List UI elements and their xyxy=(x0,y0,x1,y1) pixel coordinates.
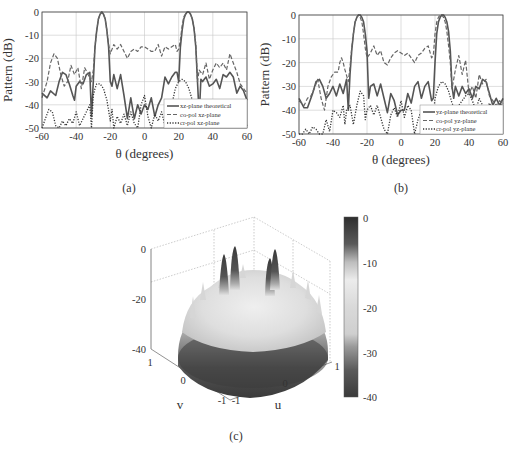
v-axis-label: v xyxy=(177,397,184,412)
svg-text:60: 60 xyxy=(242,131,253,142)
z-tick-labels: 0 -20 -40 xyxy=(132,244,146,355)
svg-text:0: 0 xyxy=(363,213,368,224)
svg-text:-50: -50 xyxy=(25,123,39,134)
x-axis-label-b: θ (degrees) xyxy=(372,152,430,167)
svg-text:40: 40 xyxy=(464,137,475,148)
svg-text:0: 0 xyxy=(291,10,296,21)
svg-text:0: 0 xyxy=(180,375,185,386)
svg-text:0: 0 xyxy=(142,131,147,142)
chart-panel-b: -60-40-2002040600-10-20-30-40-50 θ (degr… xyxy=(257,10,508,195)
svg-text:0: 0 xyxy=(282,378,287,389)
svg-text:0: 0 xyxy=(141,244,146,255)
svg-text:-20: -20 xyxy=(282,58,296,69)
svg-text:1: 1 xyxy=(334,361,339,372)
svg-text:-20: -20 xyxy=(25,53,39,64)
svg-text:-40: -40 xyxy=(363,392,377,403)
svg-text:-10: -10 xyxy=(25,30,39,41)
colorbar-tick-labels: 0 -10 -20 -30 -40 xyxy=(363,213,377,403)
svg-text:0: 0 xyxy=(398,137,403,148)
x-axis-label-a: θ (degrees) xyxy=(116,146,174,161)
svg-text:60: 60 xyxy=(498,137,509,148)
svg-text:-1: -1 xyxy=(232,395,241,406)
svg-text:-30: -30 xyxy=(25,77,39,88)
svg-text:-40: -40 xyxy=(69,131,83,142)
svg-text:-30: -30 xyxy=(282,81,296,92)
svg-text:-40: -40 xyxy=(25,100,39,111)
svg-text:20: 20 xyxy=(173,131,184,142)
svg-text:-1: -1 xyxy=(218,395,227,406)
legend-a: xz-plane theoreticalco-pol xz-planecr-po… xyxy=(164,99,247,128)
svg-text:-10: -10 xyxy=(282,34,296,45)
chart-panel-a: -60-40-2002040600-10-20-30-40-50 θ (degr… xyxy=(0,7,252,195)
legend-entry: yz-plane theoretical xyxy=(436,108,488,115)
svg-text:-40: -40 xyxy=(132,344,146,355)
surface-dome xyxy=(182,270,326,352)
svg-text:-10: -10 xyxy=(363,258,377,269)
svg-text:-30: -30 xyxy=(363,348,377,359)
u-axis-label: u xyxy=(275,397,282,412)
legend-b: yz-plane theoreticalco-pol yz-planecr-po… xyxy=(420,105,503,134)
y-axis-label-b: Pattern (dB) xyxy=(257,43,272,107)
svg-text:-20: -20 xyxy=(132,294,146,305)
legend-entry: cr-pol yz-plane xyxy=(436,125,476,132)
figure: -60-40-2002040600-10-20-30-40-50 θ (degr… xyxy=(0,0,511,450)
colorbar xyxy=(344,217,358,397)
caption-b: (b) xyxy=(394,181,408,195)
svg-text:-20: -20 xyxy=(363,303,377,314)
chart-panel-c-surface: 0 -20 -40 1 0 -1 -1 0 1 v u 0 -10 -20 -3… xyxy=(132,213,377,443)
svg-text:-40: -40 xyxy=(326,137,340,148)
y-axis-label-a: Pattern (dB) xyxy=(0,38,15,102)
caption-a: (a) xyxy=(122,181,135,195)
legend-entry: co-pol xz-plane xyxy=(180,111,221,118)
svg-text:20: 20 xyxy=(430,137,441,148)
svg-text:-50: -50 xyxy=(282,129,296,140)
svg-text:0: 0 xyxy=(34,7,39,18)
svg-text:1: 1 xyxy=(147,357,152,368)
svg-text:40: 40 xyxy=(208,131,219,142)
svg-text:-20: -20 xyxy=(360,137,374,148)
legend-entry: co-pol yz-plane xyxy=(436,117,477,124)
svg-text:-20: -20 xyxy=(103,131,117,142)
legend-entry: xz-plane theoretical xyxy=(180,102,232,109)
legend-entry: cr-pol xz-plane xyxy=(180,119,220,126)
svg-text:-40: -40 xyxy=(282,105,296,116)
caption-c: (c) xyxy=(229,429,242,443)
